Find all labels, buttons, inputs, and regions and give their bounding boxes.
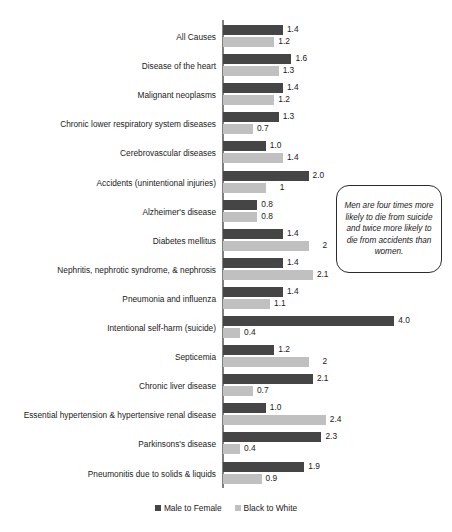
bar-black-to-white: 1.4 bbox=[223, 153, 283, 163]
bar-row: Septicemia1.22 bbox=[0, 345, 452, 369]
bar-fill bbox=[223, 54, 291, 64]
category-label: Accidents (unintentional injuries) bbox=[6, 171, 216, 195]
bar-fill bbox=[223, 153, 283, 163]
bar-value-label: 1.4 bbox=[287, 152, 299, 163]
bar-fill bbox=[223, 37, 274, 47]
bar-value-label: 2.4 bbox=[330, 414, 342, 425]
bar-fill bbox=[223, 112, 279, 122]
bar-value-label: 2 bbox=[323, 356, 328, 367]
bar-value-label: 1.3 bbox=[283, 111, 295, 122]
legend-swatch-black-to-white bbox=[235, 505, 241, 511]
bar-value-label: 0.8 bbox=[261, 211, 273, 222]
bar-fill bbox=[223, 386, 253, 396]
category-label: Essential hypertension & hypertensive re… bbox=[6, 403, 216, 427]
callout-box: Men are four times more likely to die fr… bbox=[336, 185, 442, 273]
bar-fill bbox=[223, 270, 313, 280]
bar-black-to-white: 0.9 bbox=[223, 474, 262, 484]
bar-black-to-white: 2.1 bbox=[223, 270, 313, 280]
bar-male-to-female: 1.3 bbox=[223, 112, 279, 122]
category-label: Chronic liver disease bbox=[6, 374, 216, 398]
bar-black-to-white: 2 bbox=[223, 357, 309, 367]
bar-fill bbox=[223, 241, 309, 251]
bar-value-label: 1.4 bbox=[287, 24, 299, 35]
plot-area: All Causes1.41.2Disease of the heart1.61… bbox=[0, 0, 452, 492]
bar-male-to-female: 1.9 bbox=[223, 462, 304, 472]
bar-fill bbox=[223, 95, 274, 105]
bar-value-label: 1.2 bbox=[278, 94, 290, 105]
bar-value-label: 1.4 bbox=[287, 286, 299, 297]
bar-value-label: 2.0 bbox=[313, 170, 325, 181]
category-label: Chronic lower respiratory system disease… bbox=[6, 112, 216, 136]
bar-fill bbox=[223, 316, 394, 326]
bar-male-to-female: 2.1 bbox=[223, 374, 313, 384]
bar-fill bbox=[223, 229, 283, 239]
bar-row: Malignant neoplasms1.41.2 bbox=[0, 83, 452, 107]
bar-male-to-female: 1.4 bbox=[223, 83, 283, 93]
bar-value-label: 1.2 bbox=[278, 344, 290, 355]
bar-fill bbox=[223, 141, 266, 151]
category-label: All Causes bbox=[6, 25, 216, 49]
bar-fill bbox=[223, 66, 279, 76]
bar-value-label: 0.7 bbox=[257, 385, 269, 396]
bar-row: Parkinsons's disease2.30.4 bbox=[0, 432, 452, 456]
bar-fill bbox=[223, 374, 313, 384]
category-label: Nephritis, nephrotic syndrome, & nephros… bbox=[6, 258, 216, 282]
bar-fill bbox=[223, 212, 257, 222]
bar-black-to-white: 2 bbox=[223, 241, 309, 251]
bar-male-to-female: 1.4 bbox=[223, 258, 283, 268]
legend-item-male-to-female: Male to Female bbox=[155, 503, 222, 513]
category-label: Septicemia bbox=[6, 345, 216, 369]
bar-male-to-female: 1.2 bbox=[223, 345, 274, 355]
bar-row: Disease of the heart1.61.3 bbox=[0, 54, 452, 78]
bar-fill bbox=[223, 462, 304, 472]
bar-fill bbox=[223, 444, 240, 454]
bar-value-label: 1.0 bbox=[270, 402, 282, 413]
bar-value-label: 0.8 bbox=[261, 199, 273, 210]
category-label: Alzheimer's disease bbox=[6, 200, 216, 224]
bar-fill bbox=[223, 183, 266, 193]
bar-value-label: 1.4 bbox=[287, 82, 299, 93]
bar-black-to-white: 2.4 bbox=[223, 415, 326, 425]
legend-item-black-to-white: Black to White bbox=[235, 503, 298, 513]
bar-row: Intentional self-harm (suicide)4.00.4 bbox=[0, 316, 452, 340]
bar-fill bbox=[223, 124, 253, 134]
bar-male-to-female: 4.0 bbox=[223, 316, 394, 326]
bar-male-to-female: 1.6 bbox=[223, 54, 291, 64]
bar-fill bbox=[223, 258, 283, 268]
bar-fill bbox=[223, 299, 270, 309]
bar-male-to-female: 1.0 bbox=[223, 403, 266, 413]
bar-row: Cerebrovascular diseases1.01.4 bbox=[0, 141, 452, 165]
bar-fill bbox=[223, 403, 266, 413]
bar-row: Chronic liver disease2.10.7 bbox=[0, 374, 452, 398]
category-label: Malignant neoplasms bbox=[6, 83, 216, 107]
bar-black-to-white: 0.4 bbox=[223, 444, 240, 454]
category-label: Parkinsons's disease bbox=[6, 432, 216, 456]
bar-black-to-white: 0.7 bbox=[223, 124, 253, 134]
bar-fill bbox=[223, 474, 262, 484]
bar-value-label: 1.9 bbox=[308, 461, 320, 472]
bar-value-label: 2.1 bbox=[317, 373, 329, 384]
bar-value-label: 0.4 bbox=[244, 443, 256, 454]
bar-value-label: 0.7 bbox=[257, 123, 269, 134]
bar-male-to-female: 1.4 bbox=[223, 229, 283, 239]
bar-fill bbox=[223, 432, 321, 442]
bar-black-to-white: 0.4 bbox=[223, 328, 240, 338]
bar-row: Pneumonia and influenza1.41.1 bbox=[0, 287, 452, 311]
bar-value-label: 2.1 bbox=[317, 269, 329, 280]
bar-fill bbox=[223, 200, 257, 210]
category-label: Diabetes mellitus bbox=[6, 229, 216, 253]
bar-black-to-white: 1.1 bbox=[223, 299, 270, 309]
bar-value-label: 2 bbox=[323, 240, 328, 251]
bar-fill bbox=[223, 287, 283, 297]
bar-value-label: 1.3 bbox=[283, 65, 295, 76]
bar-male-to-female: 0.8 bbox=[223, 200, 257, 210]
bar-value-label: 1.2 bbox=[278, 36, 290, 47]
bar-male-to-female: 2.3 bbox=[223, 432, 321, 442]
bar-value-label: 4.0 bbox=[398, 315, 410, 326]
bar-male-to-female: 1.4 bbox=[223, 287, 283, 297]
ratio-bar-chart: All Causes1.41.2Disease of the heart1.61… bbox=[0, 0, 452, 532]
callout-text: Men are four times more likely to die fr… bbox=[337, 200, 441, 258]
category-label: Intentional self-harm (suicide) bbox=[6, 316, 216, 340]
bar-fill bbox=[223, 357, 309, 367]
bar-black-to-white: 1 bbox=[223, 183, 266, 193]
